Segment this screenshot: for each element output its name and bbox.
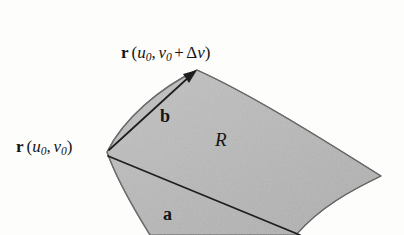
label-top-comma: ,	[152, 43, 159, 62]
label-corner-close-paren: )	[67, 137, 73, 156]
label-corner-point: r(u0,v0)	[16, 138, 73, 158]
label-top-v: v	[159, 43, 167, 62]
label-top-point: r(u0,v0+Δv)	[121, 44, 210, 64]
label-corner-vector-r: r	[16, 137, 24, 156]
label-top-delta: Δ	[186, 43, 197, 62]
label-top-vector-r: r	[121, 43, 129, 62]
label-top-plus: +	[172, 43, 186, 62]
label-top-u-subscript: 0	[146, 51, 152, 64]
label-region-r: R	[215, 130, 227, 149]
surface-patch-figure: r(u0,v0+Δv) r(u0,v0) R b a	[0, 0, 404, 235]
label-top-u: u	[137, 43, 146, 62]
label-corner-u: u	[32, 137, 41, 156]
patch-fill	[107, 70, 381, 235]
label-vector-a: a	[163, 205, 172, 223]
label-corner-comma: ,	[47, 137, 54, 156]
surface-patch	[107, 70, 381, 235]
label-top-v-subscript: 0	[166, 51, 172, 64]
label-top-close-paren: )	[205, 43, 211, 62]
label-corner-v: v	[54, 137, 62, 156]
label-vector-b: b	[160, 107, 170, 125]
label-top-delta-var: v	[197, 43, 205, 62]
label-corner-u-subscript: 0	[41, 145, 47, 158]
figure-canvas	[0, 0, 404, 235]
